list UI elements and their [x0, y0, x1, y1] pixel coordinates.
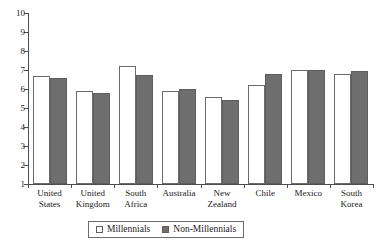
chart-legend: Millennials Non-Millennials [88, 221, 244, 238]
y-axis-tick-label: 10 [16, 9, 25, 18]
bar-group [28, 13, 71, 184]
category-label-line: States [28, 199, 71, 210]
x-axis-tick-mark [373, 184, 374, 188]
bar-group [71, 13, 114, 184]
y-axis-tick-label: 7 [21, 66, 26, 75]
bar-non-millennials [50, 78, 67, 184]
bar-non-millennials [179, 89, 196, 184]
bar-millennials [205, 97, 222, 184]
gray-square-icon [162, 226, 169, 233]
bar-group [201, 13, 244, 184]
category-label-line: United [71, 188, 114, 199]
bar-group [157, 13, 200, 184]
bar-chart: 10987654321 UnitedStatesUnitedKingdomSou… [0, 0, 381, 249]
x-axis-category-label: Chile [244, 188, 287, 199]
bar-millennials [291, 70, 308, 184]
bar-group [114, 13, 157, 184]
category-label-line: South [114, 188, 157, 199]
plot-area [28, 13, 373, 184]
category-label-line: Australia [157, 188, 200, 199]
bar-non-millennials [136, 75, 153, 184]
bar-group [244, 13, 287, 184]
bar-millennials [119, 66, 136, 184]
legend-item-non-millennials: Non-Millennials [162, 224, 236, 235]
bar-non-millennials [351, 71, 368, 184]
category-label-line: New [201, 188, 244, 199]
bar-group [287, 13, 330, 184]
y-axis-tick-label: 6 [21, 85, 26, 94]
white-square-icon [96, 226, 103, 233]
bar-millennials [334, 74, 351, 184]
category-label-line: Kingdom [71, 199, 114, 210]
y-axis-tick-label: 5 [21, 104, 26, 113]
x-axis-category-label: UnitedKingdom [71, 188, 114, 210]
x-axis-category-label: NewZealand [201, 188, 244, 210]
x-axis-category-label: SouthAfrica [114, 188, 157, 210]
y-axis-tick-label: 3 [21, 142, 26, 151]
bar-non-millennials [93, 93, 110, 184]
category-label-line: Korea [330, 199, 373, 210]
x-axis-category-label: Mexico [287, 188, 330, 199]
y-axis-tick-label: 2 [21, 161, 26, 170]
bar-non-millennials [265, 74, 282, 184]
legend-label-non-millennials: Non-Millennials [173, 224, 236, 235]
bar-group [330, 13, 373, 184]
bar-millennials [162, 91, 179, 184]
x-axis-category-label: UnitedStates [28, 188, 71, 210]
x-axis-category-label: Australia [157, 188, 200, 199]
y-axis-tick-label: 8 [21, 47, 26, 56]
legend-label-millennials: Millennials [107, 224, 150, 235]
legend-item-millennials: Millennials [96, 224, 150, 235]
bar-millennials [248, 85, 265, 184]
bar-millennials [33, 76, 50, 184]
category-label-line: South [330, 188, 373, 199]
x-axis-category-label: SouthKorea [330, 188, 373, 210]
y-axis-tick-label: 4 [21, 123, 26, 132]
y-axis-tick-label: 1 [21, 180, 26, 189]
category-label-line: United [28, 188, 71, 199]
category-label-line: Zealand [201, 199, 244, 210]
category-label-line: Chile [244, 188, 287, 199]
bar-millennials [76, 91, 93, 184]
category-label-line: Mexico [287, 188, 330, 199]
category-label-line: Africa [114, 199, 157, 210]
bar-non-millennials [222, 100, 239, 184]
bar-non-millennials [308, 70, 325, 184]
y-axis-tick-label: 9 [21, 28, 26, 37]
